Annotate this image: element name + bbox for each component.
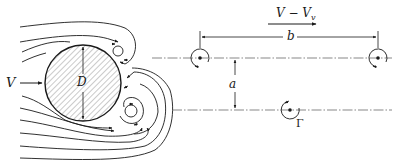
vortex-row-centerlines xyxy=(152,58,392,110)
diagram-canvas xyxy=(0,0,400,166)
circulation-label: Γ xyxy=(296,118,304,129)
street-velocity-label: V − Vv xyxy=(276,7,316,22)
freestream-velocity-label: V xyxy=(6,76,15,89)
row-spacing-label: a xyxy=(229,78,236,90)
street-velocity-main: V − V xyxy=(276,6,311,20)
upper-wake-vortex xyxy=(112,44,128,60)
street-velocity-subscript: v xyxy=(311,13,316,22)
diameter-label: D xyxy=(77,76,87,88)
lower-wake-vortex xyxy=(120,97,143,125)
vortex-spacing-label: b xyxy=(287,30,295,42)
vortex-street-diagram: V D V − Vv b a Γ xyxy=(0,0,400,166)
